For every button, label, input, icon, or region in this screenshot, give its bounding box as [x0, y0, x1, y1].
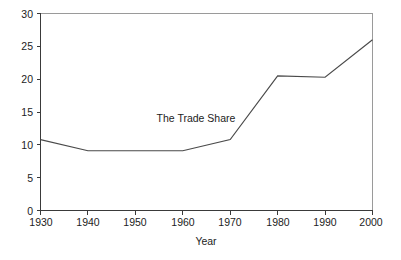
chart-background	[0, 0, 401, 260]
x-tick-label: 1960	[171, 216, 195, 228]
x-axis-title: Year	[195, 235, 217, 247]
chart-canvas: 30 25 20 15 10 5 0 1930 1940 1950 1960 1…	[0, 0, 401, 260]
x-tick-label: 1970	[218, 216, 242, 228]
series-annotation-label: The Trade Share	[157, 112, 236, 124]
y-tick-label: 0	[27, 205, 33, 217]
y-tick-label: 20	[21, 73, 33, 85]
y-tick-label: 15	[21, 106, 33, 118]
y-tick-label: 30	[21, 8, 33, 20]
y-tick-label: 25	[21, 40, 33, 52]
x-tick-label: 1930	[29, 216, 53, 228]
y-tick-label: 10	[21, 139, 33, 151]
x-tick-label: 1940	[76, 216, 100, 228]
x-tick-label: 1980	[266, 216, 290, 228]
x-tick-label: 1950	[123, 216, 147, 228]
y-tick-label: 5	[27, 172, 33, 184]
x-tick-label: 1990	[313, 216, 337, 228]
line-chart: 30 25 20 15 10 5 0 1930 1940 1950 1960 1…	[0, 0, 401, 260]
x-tick-label: 2000	[359, 216, 383, 228]
